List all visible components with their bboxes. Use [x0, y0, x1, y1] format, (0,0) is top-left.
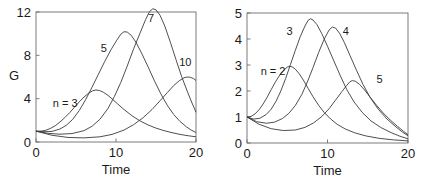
- data-curve: [247, 27, 408, 136]
- right-plot-svg: 01234501020Timen = 2345: [216, 0, 432, 178]
- curve-label: n = 3: [53, 97, 78, 109]
- chart-panel-left: 0481201020TimeGn = 35710: [0, 0, 216, 178]
- curve-label: 4: [343, 25, 349, 37]
- data-curve: [247, 81, 408, 135]
- x-axis-label: Time: [102, 162, 130, 177]
- x-tick-label: 20: [401, 146, 415, 161]
- x-tick-label: 0: [243, 146, 250, 161]
- y-tick-label: 8: [24, 48, 31, 63]
- x-tick-label: 10: [109, 145, 123, 160]
- y-tick-label: 0: [24, 135, 31, 150]
- left-plot-svg: 0481201020TimeGn = 35710: [0, 0, 216, 178]
- curve-label: 10: [179, 56, 191, 68]
- x-tick-label: 0: [32, 145, 39, 160]
- curve-label: 5: [101, 42, 107, 54]
- data-curve: [247, 19, 408, 139]
- curve-label: 7: [148, 12, 154, 24]
- chart-panel-right: 01234501020Timen = 2345: [216, 0, 432, 178]
- curve-label: 5: [377, 73, 383, 85]
- curve-label: n = 2: [261, 65, 286, 77]
- y-tick-label: 1: [235, 110, 242, 125]
- x-tick-label: 20: [189, 145, 203, 160]
- x-axis-label: Time: [313, 163, 341, 178]
- y-tick-label: 12: [17, 5, 31, 20]
- y-tick-label: 4: [235, 32, 242, 47]
- y-tick-label: 4: [24, 91, 31, 106]
- y-tick-label: 2: [235, 84, 242, 99]
- y-tick-label: 3: [235, 58, 242, 73]
- data-curve: [247, 66, 408, 141]
- y-tick-label: 5: [235, 6, 242, 21]
- data-curve: [36, 9, 196, 134]
- x-tick-label: 10: [320, 146, 334, 161]
- curve-label: 3: [286, 25, 292, 37]
- figure-container: 0481201020TimeGn = 35710 01234501020Time…: [0, 0, 432, 178]
- y-tick-label: 0: [235, 136, 242, 151]
- y-axis-label: G: [9, 68, 19, 83]
